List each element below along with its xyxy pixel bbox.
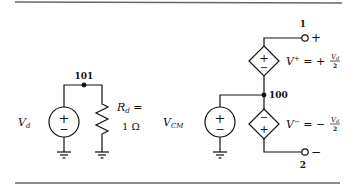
upper-dep-bottom-symbol: −	[260, 62, 268, 73]
terminal-2	[302, 149, 308, 155]
wire-101	[64, 85, 102, 107]
node-label-100: 100	[269, 90, 288, 100]
node-label-101: 101	[75, 71, 94, 81]
terminal-2-label: 2	[300, 160, 306, 170]
vcm-label: VCM	[163, 116, 184, 130]
vplus-frac-num: Vd	[331, 53, 339, 61]
vcm-minus-symbol: −	[215, 123, 224, 136]
terminal-1-sign: +	[311, 31, 321, 45]
top-rule	[15, 2, 342, 3]
vplus-equation: V+ = +	[286, 55, 325, 68]
vminus-equation: V− = −	[286, 118, 325, 131]
wire-terminal-1	[264, 38, 302, 46]
ground-icon	[213, 152, 227, 158]
ground-icon	[95, 152, 109, 158]
node-dot-101	[82, 83, 86, 87]
lower-dep-bottom-symbol: +	[259, 123, 268, 136]
rd-value: 1 Ω	[122, 121, 140, 132]
resistor-rd	[96, 100, 108, 152]
right-circuit	[205, 35, 308, 158]
wire-terminal-2	[264, 139, 302, 152]
vminus-frac-num: Vd	[331, 116, 339, 124]
terminal-1-label: 1	[300, 19, 306, 29]
vminus-frac-den: 2	[333, 125, 337, 132]
vplus-frac-den: 2	[333, 62, 337, 69]
terminal-2-sign: −	[311, 145, 321, 159]
wire-cm-to-node	[220, 95, 264, 107]
ground-icon	[57, 152, 71, 158]
terminal-1	[302, 35, 308, 41]
vd-label: Vd	[18, 116, 31, 130]
vd-minus-symbol: −	[59, 123, 68, 136]
circuit-diagram: + − 101 Vd Rd = 1 Ω + − − + + − 1	[0, 0, 359, 188]
rd-label: Rd =	[116, 101, 143, 115]
lower-dep-top-symbol: −	[260, 112, 268, 123]
